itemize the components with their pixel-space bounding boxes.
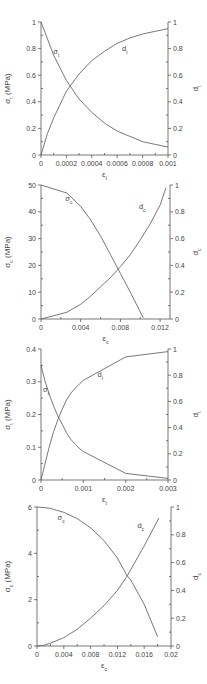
x-axis-label: εt: [102, 170, 108, 181]
x-tick-label: 0.012: [109, 651, 127, 658]
figure-stack: 00.00020.00040.00060.00080.00100.20.40.6…: [0, 0, 207, 684]
x-tick-label: 0.001: [159, 160, 177, 167]
x-tick-label: 0: [39, 324, 43, 331]
series-d-t: [41, 352, 168, 480]
series-label: dc: [138, 521, 145, 532]
y2-tick-label: 0.6: [176, 559, 186, 566]
y2-tick-label: 0.8: [173, 372, 183, 379]
y-tick-label: 0.4: [26, 98, 36, 105]
y-axis-label: σc (MPa): [3, 236, 14, 268]
y2-tick-label: 0.4: [175, 262, 185, 269]
series-label: σc: [58, 513, 66, 524]
series-σ-t: [41, 22, 168, 147]
y-tick-label: 0: [32, 316, 36, 323]
y-tick-label: 30: [28, 235, 36, 242]
x-axis-label: εt: [102, 495, 108, 506]
y-axis-label: σc (MPa): [3, 560, 14, 592]
series-label: dt: [122, 44, 128, 55]
y2-tick-label: 0: [176, 643, 180, 650]
y-tick-label: 0: [32, 477, 36, 484]
series-label: σt: [53, 47, 60, 58]
y2-tick-label: 0.4: [173, 424, 183, 431]
y2-tick-label: 0.6: [173, 398, 183, 405]
y2-tick-label: 0.2: [175, 289, 185, 296]
x-tick-label: 0.001: [75, 485, 93, 492]
y-tick-label: 6: [28, 504, 32, 511]
y2-tick-label: 0: [173, 477, 177, 484]
x-tick-label: 0.004: [55, 651, 73, 658]
y-tick-label: 0.4: [26, 346, 36, 353]
y2-tick-label: 0.8: [175, 208, 185, 215]
x-tick-label: 0: [39, 485, 43, 492]
y-tick-label: 0.6: [26, 72, 36, 79]
series-d-c: [37, 518, 159, 646]
x-tick-label: 0.012: [151, 324, 169, 331]
chart-1: 00.00020.00040.00060.00080.00100.20.40.6…: [3, 19, 202, 182]
y2-axis-label: dc: [191, 573, 202, 580]
series-label: σc: [65, 194, 73, 205]
chart-3: 00.0010.0020.00300.10.20.30.400.20.40.60…: [3, 346, 202, 507]
y2-tick-label: 0: [175, 316, 179, 323]
y-tick-label: 10: [28, 289, 36, 296]
y-tick-label: 50: [28, 182, 36, 189]
x-axis-label: εc: [101, 661, 108, 672]
y-tick-label: 20: [28, 262, 36, 269]
y-tick-label: 40: [28, 208, 36, 215]
series-label: dt: [98, 370, 104, 381]
y2-tick-label: 1: [175, 182, 179, 189]
y-tick-label: 1: [32, 19, 36, 26]
y-tick-label: 0.3: [26, 378, 36, 385]
y-tick-label: 0.2: [26, 125, 36, 132]
x-tick-label: 0.0002: [56, 160, 78, 167]
y2-tick-label: 0.2: [173, 450, 183, 457]
y-tick-label: 0: [28, 643, 32, 650]
y-tick-label: 0.1: [26, 444, 36, 451]
x-tick-label: 0.008: [112, 324, 130, 331]
y2-tick-label: 0.2: [176, 615, 186, 622]
x-tick-label: 0.003: [159, 485, 177, 492]
y2-tick-label: 0.8: [176, 531, 186, 538]
chart-2: 00.0040.0080.0120102030405000.20.40.60.8…: [3, 182, 202, 346]
x-tick-label: 0.016: [135, 651, 153, 658]
y2-tick-label: 0.6: [175, 235, 185, 242]
x-tick-label: 0.02: [164, 651, 178, 658]
y2-tick-label: 0: [173, 152, 177, 159]
y2-tick-label: 1: [173, 346, 177, 353]
series-σ-c: [41, 185, 143, 318]
y2-tick-label: 1: [173, 19, 177, 26]
series-label: dc: [139, 202, 146, 213]
x-axis-label: εc: [102, 334, 109, 345]
x-tick-label: 0.0004: [81, 160, 103, 167]
x-tick-label: 0.008: [82, 651, 100, 658]
y-tick-label: 0.2: [26, 411, 36, 418]
y-axis-label: σt (MPa): [3, 399, 14, 430]
y2-tick-label: 0.2: [173, 125, 183, 132]
x-tick-label: 0: [35, 651, 39, 658]
y2-axis-label: dc: [191, 248, 202, 255]
y2-tick-label: 0.8: [173, 45, 183, 52]
chart-4: 00.0040.0080.0120.0160.02024600.20.40.60…: [3, 504, 202, 673]
charts-svg: 00.00020.00040.00060.00080.00100.20.40.6…: [0, 0, 207, 684]
y-axis-label: σt (MPa): [3, 73, 14, 104]
x-tick-label: 0.004: [72, 324, 90, 331]
y2-tick-label: 0.4: [173, 98, 183, 105]
x-tick-label: 0.002: [117, 485, 135, 492]
y-tick-label: 0.8: [26, 45, 36, 52]
series-d-t: [41, 29, 168, 155]
y2-axis-label: dt: [191, 85, 202, 91]
x-tick-label: 0.0006: [106, 160, 128, 167]
series-σ-t: [41, 365, 168, 478]
y-tick-label: 0: [32, 152, 36, 159]
y-tick-label: 2: [28, 596, 32, 603]
y2-tick-label: 0.4: [176, 587, 186, 594]
series-d-c: [41, 188, 166, 319]
y2-axis-label: dt: [191, 411, 202, 417]
y2-tick-label: 0.6: [173, 72, 183, 79]
series-label: σt: [43, 385, 50, 396]
x-tick-label: 0: [39, 160, 43, 167]
y-tick-label: 4: [28, 550, 32, 557]
y2-tick-label: 1: [176, 504, 180, 511]
x-tick-label: 0.0008: [132, 160, 154, 167]
